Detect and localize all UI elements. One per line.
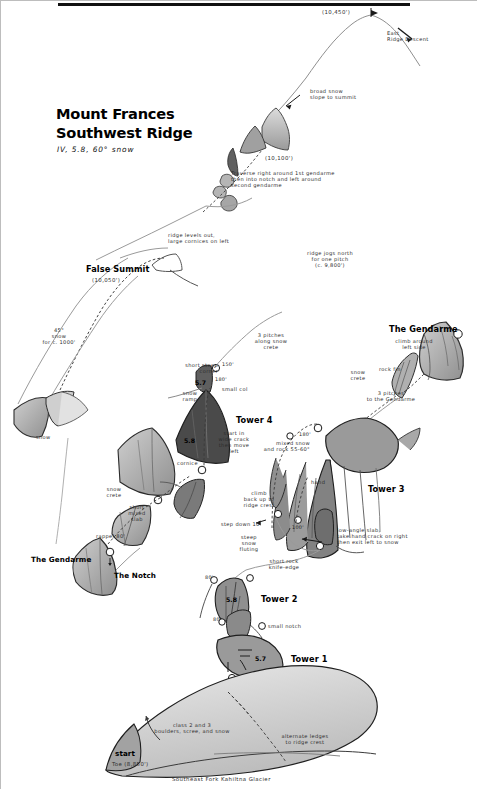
gendarme-pitches-note: 3 pitches to the Gendarme <box>360 390 422 402</box>
approach-terrain-note: class 2 and 3 boulders, scree, and snow <box>146 722 238 734</box>
belay-circle-t3-top <box>314 424 322 432</box>
tower3-slab-note: low-angle slab, take hand crack on right… <box>337 527 408 545</box>
topo-page: Mount Frances Southwest Ridge IV, 5.8, 6… <box>0 0 477 789</box>
tower3-step-down-note: step down 10' <box>221 521 261 527</box>
tower1-belay-80: 80' <box>213 617 221 623</box>
ridge-jog-note: ridge jogs north for one pitch (c. 9,800… <box>296 250 364 268</box>
tower3-belay-100: 100' <box>292 525 304 531</box>
left-snow-rock-feature <box>14 391 88 437</box>
belay-circle-t3-100 <box>295 517 302 524</box>
page-title-line2: Southwest Ridge <box>56 124 192 141</box>
belay-circle-t3-slab <box>316 542 323 549</box>
cornice-rock <box>174 479 205 518</box>
toe-elevation: Toe (8,850') <box>112 761 149 767</box>
summit-elevation: (10,450') <box>322 9 350 15</box>
tower3-mixed-note: mixed snow and rock 55-60° <box>244 440 310 452</box>
tower3-hand-note: hand <box>311 479 325 485</box>
tower4-corner-grade: 5.7 <box>195 379 206 386</box>
route-grade: IV, 5.8, 60° snow <box>57 145 134 154</box>
gendarme-snow-crete-note: snow crete <box>344 369 372 381</box>
tower4-label: Tower 4 <box>236 416 273 426</box>
east-ridge-descent-label: East Ridge Descent <box>387 30 429 42</box>
alternate-ledges-note: alternate ledges to ridge crest <box>274 733 336 745</box>
tower4-belay-180: 180' <box>215 377 227 383</box>
false-summit-snow-note: 45° snow for c. 1000' <box>36 327 82 345</box>
rock-fin-label: rock fin <box>379 366 401 372</box>
figure-caption: Southeast Fork Kahiltna Glacier <box>172 776 271 782</box>
gendarme-right-label: The Gendarme <box>389 325 458 335</box>
tower4-pitches-note: 3 pitches along snow crete <box>249 332 293 350</box>
tower3-climb-note: climb back up to ridge crest <box>236 490 282 508</box>
false-summit-label: False Summit <box>86 265 149 275</box>
tower1-label: Tower 1 <box>291 655 328 665</box>
tower3-belay-180: 180' <box>299 432 311 438</box>
left-snow-label: snow <box>36 434 51 440</box>
notch-mixed-slab-note: short mixed slab <box>124 504 150 522</box>
cornice-label: cornice <box>177 460 198 466</box>
tower1-grade: 5.7 <box>255 655 266 662</box>
page-title-line1: Mount Frances <box>56 105 175 122</box>
summit-marker-icon <box>371 10 378 16</box>
tower3-label: Tower 3 <box>368 485 405 495</box>
tower4-small-col-note: small col <box>222 386 248 392</box>
gendarme-right-note: climb around left side <box>391 338 437 350</box>
broad-snow-slope-note: broad snow slope to summit <box>310 88 356 100</box>
gendarme-left-label: The Gendarme <box>31 556 91 564</box>
rappel-note: rappel 80' <box>96 533 125 539</box>
tower4-corner-note: short steep corner <box>174 362 218 374</box>
gendarme-traverse-note: Traverse right around 1st gendarme then … <box>231 170 335 188</box>
upper-gendarme-elevation: (10,100') <box>265 155 293 161</box>
belay-circle-t4-start <box>198 466 206 474</box>
tower4-snow-ramp-note: snow ramp <box>176 390 204 402</box>
tower2-knife-edge-note: short rock knife-edge <box>262 558 306 570</box>
tower2-left-line <box>200 584 212 618</box>
belay-circle-t2-right <box>247 575 254 582</box>
notch-snow-crete-note: snow crete <box>100 486 128 498</box>
tower2-label: Tower 2 <box>261 595 298 605</box>
tower1-notch-note: small notch <box>268 623 301 629</box>
belay-circle-t1-notch <box>259 623 266 630</box>
tower4-start-grade: 5.8 <box>184 437 195 444</box>
belay-circle-rappel <box>106 548 114 556</box>
left-gendarme-rock <box>73 538 117 595</box>
tower2-belay-80: 80' <box>205 575 213 581</box>
notch-label: The Notch <box>114 572 156 580</box>
tower4-belay-150: 150' <box>222 362 234 368</box>
start-label: start <box>115 750 135 758</box>
tower3-fluting-note: steep snow fluting <box>234 534 264 552</box>
ridge-levels-note: ridge levels out, large cornices on left <box>168 232 229 244</box>
notch-snow-line <box>116 548 140 570</box>
tower2-grade: 5.8 <box>226 596 237 603</box>
belay-circle-t3-crest <box>274 510 281 517</box>
false-summit-elevation: (10,050') <box>92 277 120 283</box>
left-snow-tail-line <box>56 438 68 544</box>
